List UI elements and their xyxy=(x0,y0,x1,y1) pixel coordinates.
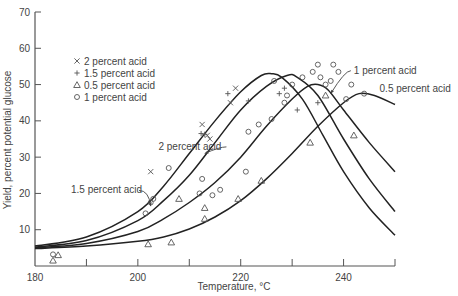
triangle-marker-icon xyxy=(235,196,242,202)
y-tick-label: 50 xyxy=(19,79,31,90)
circle-marker-icon xyxy=(349,82,354,87)
triangle-marker-icon xyxy=(74,82,81,88)
legend-marker xyxy=(74,70,79,75)
data-point xyxy=(285,93,290,98)
data-point xyxy=(176,196,183,202)
data-point xyxy=(315,62,320,67)
data-point xyxy=(282,100,287,105)
data-point xyxy=(310,69,315,74)
x-tick-label: 240 xyxy=(335,272,352,283)
data-point xyxy=(336,69,341,74)
y-tick-label: 30 xyxy=(19,152,31,163)
data-point xyxy=(323,82,328,87)
arrow-icon xyxy=(331,71,351,94)
legend: 2 percent acid1.5 percent acid0.5 percen… xyxy=(74,56,155,103)
data-point xyxy=(277,91,282,96)
circle-marker-icon xyxy=(218,187,223,192)
data-point xyxy=(168,239,175,245)
circle-marker-icon xyxy=(51,252,56,257)
data-point xyxy=(258,177,265,183)
data-point xyxy=(315,100,320,105)
circle-marker-icon xyxy=(336,69,341,74)
circle-marker-icon xyxy=(328,78,333,83)
data-point xyxy=(210,193,215,198)
triangle-marker-icon xyxy=(351,132,358,138)
yield-vs-temperature-chart: 10203040506070180200220240 2 percent aci… xyxy=(0,0,458,296)
circle-marker-icon xyxy=(243,169,248,174)
data-point xyxy=(200,122,205,127)
circle-marker-icon xyxy=(256,122,261,127)
circle-marker-icon xyxy=(315,62,320,67)
legend-label: 0.5 percent acid xyxy=(84,80,155,91)
curve-0-5-percent-acid xyxy=(35,93,395,248)
circle-marker-icon xyxy=(210,193,215,198)
circle-marker-icon xyxy=(282,100,287,105)
data-point xyxy=(218,187,223,192)
circle-marker-icon xyxy=(310,69,315,74)
triangle-marker-icon xyxy=(176,196,183,202)
data-point xyxy=(233,86,238,91)
data-point xyxy=(331,62,336,67)
data-point xyxy=(328,78,333,83)
data-point xyxy=(349,82,354,87)
data-point xyxy=(307,139,314,145)
data-point xyxy=(225,91,230,96)
data-point xyxy=(200,176,205,181)
circle-marker-icon xyxy=(200,176,205,181)
data-point xyxy=(243,169,248,174)
y-tick-label: 10 xyxy=(19,224,31,235)
data-point xyxy=(318,75,323,80)
triangle-marker-icon xyxy=(258,177,265,183)
y-tick-label: 20 xyxy=(19,188,31,199)
data-point xyxy=(351,132,358,138)
legend-marker xyxy=(75,95,80,100)
triangle-marker-icon xyxy=(307,139,314,145)
data-point xyxy=(166,166,171,171)
data-point xyxy=(256,122,261,127)
data-point xyxy=(295,107,300,112)
circle-marker-icon xyxy=(331,62,336,67)
legend-label: 1 percent acid xyxy=(84,92,147,103)
data-point xyxy=(235,196,242,202)
triangle-marker-icon xyxy=(322,92,329,98)
data-point xyxy=(50,257,57,263)
data-point xyxy=(51,252,56,257)
data-point xyxy=(246,129,251,134)
triangle-marker-icon xyxy=(50,257,57,263)
triangle-marker-icon xyxy=(201,205,208,211)
data-point xyxy=(322,92,329,98)
data-point xyxy=(145,241,152,247)
data-point xyxy=(148,169,153,174)
data-point xyxy=(205,133,210,138)
data-point xyxy=(228,100,233,105)
legend-label: 1.5 percent acid xyxy=(84,68,155,79)
y-tick-label: 60 xyxy=(19,43,31,54)
circle-marker-icon xyxy=(246,129,251,134)
curve-label: 1.5 percent acid xyxy=(71,184,142,195)
x-tick-label: 180 xyxy=(27,272,44,283)
circle-marker-icon xyxy=(318,75,323,80)
circle-marker-icon xyxy=(300,75,305,80)
x-tick-label: 200 xyxy=(130,272,147,283)
triangle-marker-icon xyxy=(168,239,175,245)
legend-label: 2 percent acid xyxy=(84,56,147,67)
data-point xyxy=(201,216,208,222)
data-point xyxy=(201,205,208,211)
circle-marker-icon xyxy=(285,93,290,98)
data-point xyxy=(282,86,287,91)
circle-marker-icon xyxy=(166,166,171,171)
triangle-marker-icon xyxy=(145,241,152,247)
x-axis-title: Temperature, °C xyxy=(198,281,271,292)
data-point xyxy=(300,75,305,80)
y-tick-label: 40 xyxy=(19,115,31,126)
y-axis-title: Yield, percent potential glucose xyxy=(2,70,13,209)
y-tick-label: 70 xyxy=(19,7,31,18)
circle-marker-icon xyxy=(75,95,80,100)
triangle-marker-icon xyxy=(201,216,208,222)
curve-label: 1 percent acid xyxy=(354,65,417,76)
legend-marker xyxy=(74,82,81,88)
legend-marker xyxy=(74,58,79,63)
circle-marker-icon xyxy=(323,82,328,87)
curve-label: 0.5 percent acid xyxy=(380,83,451,94)
